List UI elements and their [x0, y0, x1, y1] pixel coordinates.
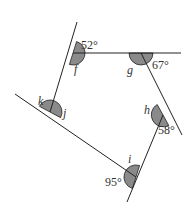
- label-g: g: [127, 63, 133, 77]
- label-58: 58°: [158, 123, 175, 137]
- label-k: k: [38, 94, 44, 108]
- line-fj-extended: [50, 22, 77, 112]
- pentagon-diagram: 52° f g 67° h 58° k j i 95°: [0, 0, 194, 211]
- label-67: 67°: [152, 58, 169, 72]
- label-95: 95°: [105, 175, 122, 189]
- line-ji-extended: [15, 94, 136, 177]
- label-52: 52°: [81, 38, 98, 52]
- label-i: i: [128, 152, 131, 166]
- label-h: h: [144, 103, 150, 117]
